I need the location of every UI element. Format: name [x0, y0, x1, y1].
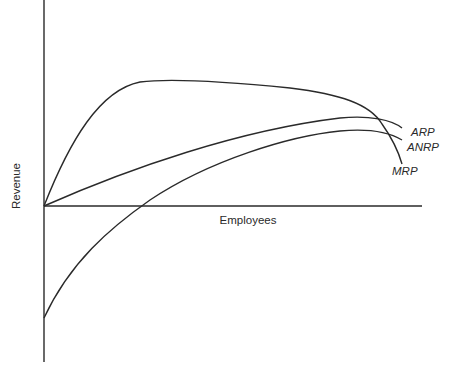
- anrp-label: ANRP: [406, 141, 439, 153]
- mrp-curve: [44, 80, 402, 206]
- mrp-label: MRP: [392, 165, 418, 177]
- revenue-employees-diagram: Employees Revenue ARP ANRP MRP: [0, 0, 464, 375]
- y-axis-label: Revenue: [10, 163, 22, 209]
- x-axis-label: Employees: [220, 214, 277, 226]
- arp-label: ARP: [410, 126, 435, 138]
